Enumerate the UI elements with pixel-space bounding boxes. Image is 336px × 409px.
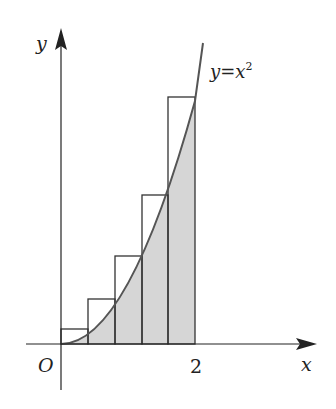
shaded-area bbox=[61, 101, 195, 344]
y-axis-label: y bbox=[35, 32, 47, 54]
riemann-sum-diagram: y x O 2 y=x2 bbox=[0, 0, 336, 409]
y-axis bbox=[55, 28, 67, 390]
curve-label: y=x2 bbox=[209, 60, 252, 82]
x-axis-label: x bbox=[301, 353, 312, 375]
x-tick-label-2: 2 bbox=[190, 355, 202, 377]
origin-label: O bbox=[38, 354, 54, 376]
